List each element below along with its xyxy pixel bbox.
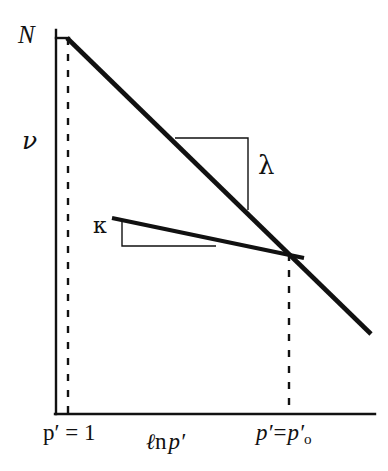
y-axis-top-label: N	[18, 22, 35, 47]
kappa-slope-marker	[122, 222, 216, 246]
y-axis-label: ν	[22, 128, 37, 153]
subscript-o: o	[304, 430, 312, 447]
x-axis-label-right: p′=p′o	[256, 421, 312, 446]
ell-glyph: ℓ	[146, 429, 155, 454]
lambda-label: λ	[258, 152, 274, 178]
plot-canvas	[0, 0, 388, 471]
n-glyph: n	[155, 429, 167, 454]
lambda-line	[67, 38, 371, 334]
x-axis-label-left: p′ = 1	[43, 421, 96, 444]
kappa-label: κ	[93, 215, 107, 237]
p-prime-glyph: p′	[169, 429, 186, 454]
p-prime-right: p′	[288, 420, 305, 445]
lambda-slope-marker	[175, 138, 248, 210]
p-prime-left: p′	[256, 420, 273, 445]
x-axis-label-center: ℓn p′	[146, 430, 185, 453]
equals-sign: =	[273, 420, 288, 445]
compression-line-figure: N ν λ κ p′ = 1 ℓn p′ p′=p′o	[0, 0, 388, 471]
